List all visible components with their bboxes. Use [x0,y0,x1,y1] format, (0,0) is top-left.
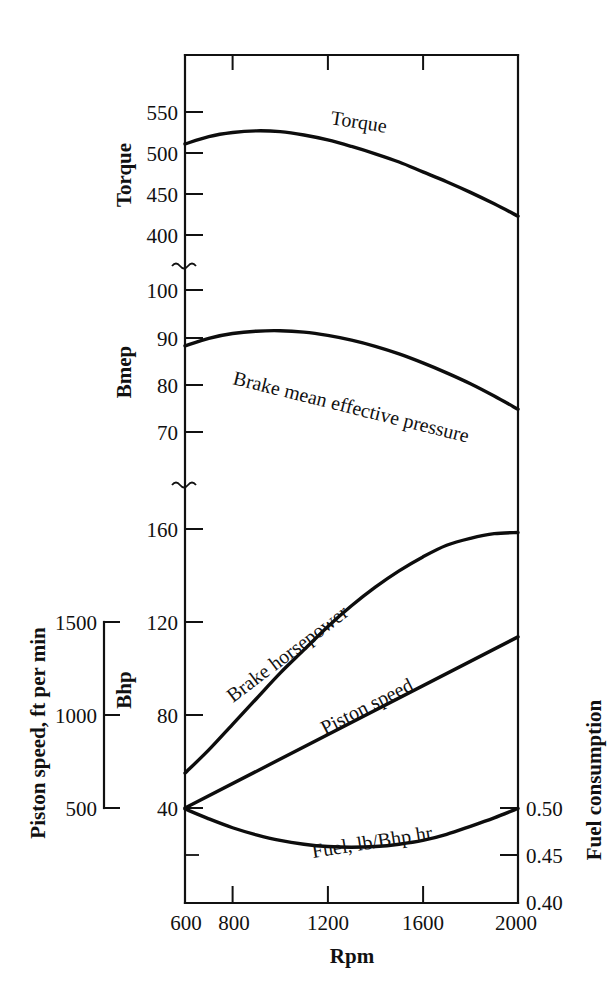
plot-frame [185,55,518,903]
fuel-tick-050: 0.50 [526,797,563,821]
bhp-axis-title: Bhp [112,671,136,708]
x-tick-label-1200: 1200 [307,911,349,935]
bmep-tick-70: 70 [157,421,178,445]
piston-speed-axis: 1500 1000 500 Piston speed, ft per min [26,611,120,839]
curve-label-bmep: Brake mean effective pressure [231,367,472,448]
top-axis-ticks [233,55,424,70]
fuel-axis-title: Fuel consumption [582,699,606,860]
bhp-tick-160: 160 [147,518,179,542]
curve-label-piston-speed: Piston speed [317,673,417,739]
torque-tick-550: 550 [147,101,179,125]
curve-label-torque: Torque [329,106,388,138]
fuel-tick-045: 0.45 [526,844,563,868]
engine-performance-chart: 600 800 1200 1600 2000 Rpm 550 500 450 4… [0,0,615,988]
x-tick-label-600: 600 [170,911,202,935]
torque-tick-450: 450 [147,183,179,207]
torque-tick-400: 400 [147,224,179,248]
bmep-axis-title: Bmep [112,346,136,399]
x-axis: 600 800 1200 1600 2000 Rpm [170,886,537,968]
chart-svg: 600 800 1200 1600 2000 Rpm 550 500 450 4… [0,0,615,988]
fuel-tick-040: 0.40 [526,891,563,915]
torque-axis: 550 500 450 400 Torque [112,101,203,269]
bmep-tick-90: 90 [157,327,178,351]
bmep-axis: 100 90 80 70 Bmep [112,279,203,488]
bmep-tick-80: 80 [157,374,178,398]
curve-label-brake-horsepower: Brake horsepower [222,601,353,707]
x-tick-label-1600: 1600 [402,911,444,935]
piston-speed-axis-title: Piston speed, ft per min [26,627,50,839]
fuel-axis: 0.50 0.45 0.40 Fuel consumption [500,699,606,915]
x-axis-title: Rpm [330,944,375,968]
bhp-tick-80: 80 [157,704,178,728]
bhp-tick-40: 40 [157,797,178,821]
torque-tick-500: 500 [147,142,179,166]
piston-speed-tick-1500: 1500 [55,611,97,635]
curve-label-fuel: Fuel, lb/Bhp hr [310,821,434,863]
curves [185,131,518,847]
x-tick-label-800: 800 [218,911,250,935]
bmep-tick-100: 100 [147,279,179,303]
piston-speed-tick-500: 500 [66,797,98,821]
brake-horsepower-curve [185,532,518,773]
curve-labels: Torque Brake mean effective pressure Bra… [222,106,471,863]
torque-curve [185,131,518,216]
torque-axis-title: Torque [112,143,136,207]
bhp-tick-120: 120 [147,611,179,635]
piston-speed-tick-1000: 1000 [55,704,97,728]
